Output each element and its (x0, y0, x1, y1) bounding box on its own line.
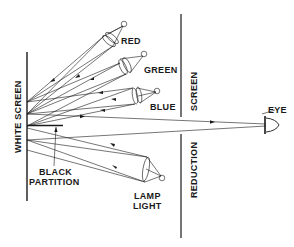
label-red: RED (121, 36, 141, 46)
label-screen: SCREEN (189, 72, 199, 111)
label-reduction: REDUCTION (189, 142, 199, 198)
label-blue: BLUE (150, 102, 176, 112)
label-green: GREEN (144, 65, 178, 75)
label-partition: PARTITION (29, 177, 80, 187)
partition-pointer (54, 127, 56, 166)
optical-diagram: RED GREEN BLUE EYE SCREEN REDUCTION WHIT… (0, 0, 294, 247)
label-lamp: LAMP (134, 191, 161, 201)
ray-to-eye-lower (27, 126, 266, 140)
label-light: LIGHT (133, 201, 162, 211)
label-black: BLACK (39, 167, 72, 177)
label-white-screen: WHITE SCREEN (13, 80, 23, 153)
label-eye: EYE (268, 105, 287, 115)
green-projector (117, 51, 147, 75)
lamp-light-projector (141, 157, 165, 182)
